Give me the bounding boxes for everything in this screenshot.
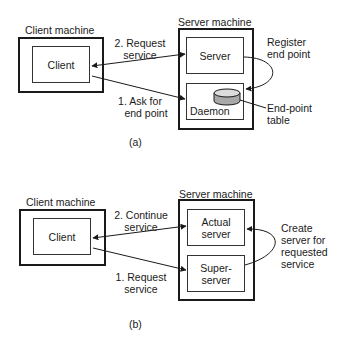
connector-layer	[0, 0, 338, 343]
request-service-arrow	[92, 54, 185, 66]
ask-end-point-arrow	[92, 76, 185, 99]
continue-service-arrow	[93, 226, 186, 238]
register-end-point-arrow	[244, 57, 273, 89]
end-point-table-leader	[240, 100, 266, 108]
create-server-arrow	[245, 229, 275, 265]
database-cylinder-icon	[214, 89, 240, 105]
request-service-arrow-b	[93, 248, 186, 270]
